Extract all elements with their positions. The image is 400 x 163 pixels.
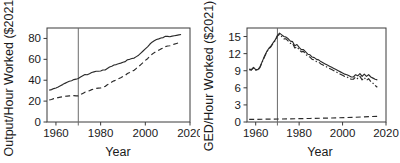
series-line-dashed-series bbox=[49, 42, 181, 100]
xtick-label: 1980 bbox=[286, 127, 312, 139]
ytick-label: 40 bbox=[28, 74, 41, 86]
right-series bbox=[249, 33, 377, 119]
right-ticks bbox=[244, 37, 387, 126]
ytick-label: 15 bbox=[228, 31, 241, 43]
xtick-label: 2020 bbox=[177, 127, 200, 139]
ytick-label: 12 bbox=[228, 48, 241, 60]
ytick-label: 6 bbox=[235, 82, 241, 94]
series-line-flat-dashed-series bbox=[249, 116, 377, 119]
series-line-solid-series bbox=[49, 34, 181, 90]
xtick-label: 1960 bbox=[243, 127, 269, 139]
left-series bbox=[49, 34, 181, 100]
right-tick-labels: 196019802000202003691215 bbox=[228, 31, 399, 139]
left-ticks bbox=[44, 38, 191, 125]
left-plot-frame bbox=[47, 28, 190, 122]
xtick-label: 2020 bbox=[373, 127, 399, 139]
xtick-label: 2000 bbox=[133, 127, 159, 139]
right-yaxis-title: GED/Hour Worked ($2021) bbox=[202, 1, 216, 152]
left-tick-labels: 1960198020002020020406080 bbox=[28, 32, 200, 139]
left-yaxis-title: Output/Hour Worked ($2021) bbox=[2, 0, 16, 156]
series-line-dashdot-series bbox=[249, 34, 377, 87]
ytick-label: 80 bbox=[28, 32, 41, 44]
ytick-label: 0 bbox=[35, 116, 41, 128]
ytick-label: 9 bbox=[235, 65, 241, 77]
ytick-label: 20 bbox=[28, 95, 41, 107]
left-chart-svg: 1960198020002020020406080 Year Output/Ho… bbox=[0, 0, 200, 163]
ytick-label: 3 bbox=[235, 99, 241, 111]
ytick-label: 60 bbox=[28, 53, 41, 65]
plot-box bbox=[47, 28, 190, 122]
right-chart-svg: 196019802000202003691215 Year GED/Hour W… bbox=[200, 0, 400, 163]
series-line-solid-series bbox=[249, 33, 377, 80]
left-xaxis-title: Year bbox=[105, 145, 130, 159]
chart-panel-output-per-hour: 1960198020002020020406080 Year Output/Ho… bbox=[0, 0, 200, 163]
right-xaxis-title: Year bbox=[307, 145, 332, 159]
xtick-label: 1960 bbox=[43, 127, 69, 139]
xtick-label: 2000 bbox=[330, 127, 356, 139]
figure-panel-pair: 1960198020002020020406080 Year Output/Ho… bbox=[0, 0, 400, 163]
xtick-label: 1980 bbox=[88, 127, 114, 139]
chart-panel-ged-per-hour: 196019802000202003691215 Year GED/Hour W… bbox=[200, 0, 400, 163]
ytick-label: 0 bbox=[235, 116, 241, 128]
